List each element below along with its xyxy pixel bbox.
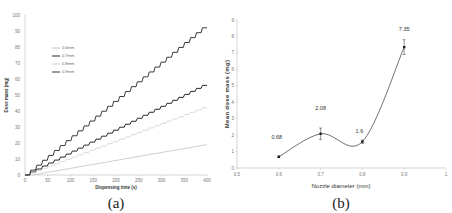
figure: 0102030405060708090100 05010015020025030… <box>0 0 452 212</box>
chart-a-series-line-0_6mm <box>25 145 207 175</box>
chart-b-y-tick-label: 6 <box>231 67 234 72</box>
chart-b-x-tick-label: 0.8 <box>359 172 366 177</box>
chart-b-data-point <box>403 46 405 48</box>
chart-a-x-tick-label: 350 <box>180 178 188 183</box>
chart-b-data-label: 2.08 <box>315 105 326 111</box>
chart-a-dose-mass-vs-time: 0102030405060708090100 05010015020025030… <box>4 13 211 213</box>
chart-a-y-tick-label: 100 <box>12 13 20 18</box>
chart-a-x-tick-label: 400 <box>203 178 211 183</box>
chart-b-x-label: Nozzle diameter (mm) <box>311 183 370 189</box>
chart-a-x-tick-label: 300 <box>158 178 166 183</box>
chart-b-y-tick-label: 8 <box>231 34 234 39</box>
chart-a-series-line-0_8mm <box>25 108 207 175</box>
chart-a-y-tick-label: 20 <box>15 141 21 146</box>
chart-a-legend-label: 0.7mm <box>62 53 75 58</box>
chart-a-y-tick-label: 30 <box>15 125 21 130</box>
chart-b-x-tick-label: 0.9 <box>401 172 408 177</box>
chart-a-y-tick-label: 40 <box>15 109 21 114</box>
chart-b-y-tick-label: 0 <box>231 166 234 171</box>
chart-a-x-tick-label: 0 <box>24 178 27 183</box>
chart-b-series-line <box>279 47 404 157</box>
chart-b-data-point <box>278 156 280 158</box>
chart-b-y-tick-label: 9 <box>231 18 234 23</box>
chart-b-y-tick-label: 7 <box>231 50 234 55</box>
chart-a-x-tick-label: 150 <box>89 178 97 183</box>
chart-a-y-tick-label: 50 <box>15 93 21 98</box>
chart-b-data-label: 1.6 <box>356 128 364 134</box>
chart-b-mean-dose-vs-nozzle: 0123456789 0.50.60.70.80.91 0.682.081.67… <box>224 18 448 212</box>
chart-a-y-tick-label: 80 <box>15 45 21 50</box>
chart-b-y-tick-label: 4 <box>231 100 234 105</box>
chart-a-series-line-0_9mm <box>25 28 207 175</box>
chart-b-data-label: 0.68 <box>271 134 282 140</box>
chart-b-x-tick-label: 1 <box>445 172 448 177</box>
chart-b-y-tick-label: 5 <box>231 83 234 88</box>
chart-a-x-tick-label: 200 <box>112 178 120 183</box>
chart-b-y-tick-label: 2 <box>231 133 234 138</box>
chart-a-series-line-0_7mm <box>25 85 207 175</box>
chart-a-legend-label: 0.6mm <box>62 45 75 50</box>
chart-a-x-tick-label: 250 <box>135 178 143 183</box>
chart-b-y-label: Mean dose mass (mg) <box>224 60 230 128</box>
chart-a-x-label: Dispensing time (s) <box>95 185 137 190</box>
chart-a-y-tick-label: 0 <box>17 173 20 178</box>
chart-a-y-label: Dose mass (mg) <box>4 77 9 112</box>
chart-b-x-tick-label: 0.7 <box>317 172 324 177</box>
chart-a-x-tick-label: 50 <box>45 178 51 183</box>
chart-a-y-tick-label: 10 <box>15 157 21 162</box>
chart-b-x-tick-label: 0.6 <box>276 172 283 177</box>
chart-b-data-label: 7.35 <box>399 26 410 32</box>
chart-b-data-point <box>319 133 321 135</box>
chart-b-x-tick-label: 0.5 <box>234 172 241 177</box>
chart-a-y-tick-label: 90 <box>15 29 21 34</box>
chart-b-y-tick-label: 1 <box>231 149 234 154</box>
chart-a-y-tick-label: 60 <box>15 77 21 82</box>
chart-a-legend-label: 0.9mm <box>62 69 75 74</box>
chart-a-y-tick-label: 70 <box>15 61 21 66</box>
chart-b-data-point <box>361 140 363 142</box>
chart-a-x-tick-label: 100 <box>67 178 75 183</box>
chart-a-legend-label: 0.8mm <box>62 61 75 66</box>
chart-b-caption: (b) <box>332 195 350 212</box>
chart-a-caption: (a) <box>108 195 125 212</box>
chart-b-y-tick-label: 3 <box>231 116 234 121</box>
